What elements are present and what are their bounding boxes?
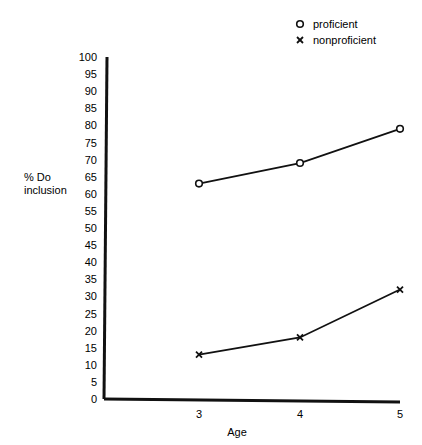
y-tick-label: 5: [91, 376, 97, 388]
y-axis-label-line1: % Do: [24, 171, 51, 183]
legend-circle-icon: [297, 21, 304, 28]
legend: proficient nonproficient: [297, 18, 376, 46]
y-axis-ticks: 0510152025303540455055606570758085909510…: [79, 51, 97, 405]
legend-label-nonproficient: nonproficient: [313, 34, 376, 46]
y-axis-label-line2: inclusion: [24, 184, 67, 196]
y-tick-label: 95: [85, 68, 97, 80]
circle-marker-icon: [196, 180, 203, 187]
x-tick-label: 4: [297, 408, 303, 420]
y-tick-label: 75: [85, 137, 97, 149]
y-tick-label: 80: [85, 119, 97, 131]
y-tick-label: 85: [85, 102, 97, 114]
x-axis-label: Age: [227, 426, 247, 438]
y-tick-label: 35: [85, 273, 97, 285]
y-tick-label: 50: [85, 222, 97, 234]
y-tick-label: 90: [85, 85, 97, 97]
x-axis-ticks: 345: [196, 408, 403, 420]
y-tick-label: 40: [85, 256, 97, 268]
y-tick-label: 65: [85, 171, 97, 183]
x-marker-icon: [397, 287, 403, 293]
series-line-nonproficient: [199, 290, 400, 355]
circle-marker-icon: [397, 126, 404, 133]
legend-label-proficient: proficient: [313, 18, 358, 30]
y-tick-label: 100: [79, 51, 97, 63]
y-tick-label: 10: [85, 359, 97, 371]
y-axis-line: [104, 57, 107, 399]
y-tick-label: 45: [85, 239, 97, 251]
y-tick-label: 70: [85, 154, 97, 166]
y-tick-label: 25: [85, 308, 97, 320]
series-line-proficient: [199, 129, 400, 184]
x-axis-line: [104, 399, 400, 402]
x-tick-label: 3: [196, 408, 202, 420]
y-tick-label: 30: [85, 290, 97, 302]
line-chart: 0510152025303540455055606570758085909510…: [0, 0, 422, 445]
y-tick-label: 15: [85, 342, 97, 354]
y-tick-label: 60: [85, 188, 97, 200]
x-tick-label: 5: [397, 408, 403, 420]
circle-marker-icon: [297, 160, 304, 167]
legend-x-icon: [297, 37, 303, 43]
y-tick-label: 0: [91, 393, 97, 405]
y-tick-label: 20: [85, 325, 97, 337]
y-tick-label: 55: [85, 205, 97, 217]
data-series: [196, 126, 404, 358]
